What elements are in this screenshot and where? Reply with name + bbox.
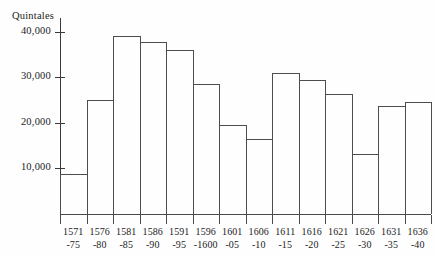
x-axis-label-1636-40: 1636-40 xyxy=(405,226,432,251)
x-tick xyxy=(352,215,353,224)
bar-1621-25 xyxy=(325,94,353,214)
y-tick-label: 30,000 xyxy=(21,70,51,81)
bar-1601-05 xyxy=(219,125,247,214)
bar-1596-1600 xyxy=(193,84,221,214)
x-axis-label-1576-80: 1576-80 xyxy=(87,226,114,251)
x-label-end: -05 xyxy=(219,238,246,251)
x-label-start: 1576 xyxy=(87,226,114,238)
x-label-end: -1600 xyxy=(193,238,220,251)
x-axis-label-1631-35: 1631-35 xyxy=(378,226,405,251)
x-label-start: 1616 xyxy=(299,226,326,238)
x-label-end: -40 xyxy=(405,238,432,251)
x-axis-label-1591-95: 1591-95 xyxy=(166,226,193,251)
x-label-start: 1606 xyxy=(246,226,273,238)
bar-1586-90 xyxy=(140,42,168,214)
y-tick-10000: 10,000 xyxy=(55,168,65,169)
x-label-start: 1626 xyxy=(352,226,379,238)
x-label-start: 1596 xyxy=(193,226,220,238)
x-tick xyxy=(166,215,167,224)
x-label-end: -10 xyxy=(246,238,273,251)
x-label-end: -35 xyxy=(378,238,405,251)
x-label-start: 1591 xyxy=(166,226,193,238)
plot-area: 10,00020,00030,00040,000 1571-751576-801… xyxy=(60,18,431,214)
y-tick-label: 20,000 xyxy=(21,116,51,127)
x-label-end: -80 xyxy=(87,238,114,251)
x-tick xyxy=(405,215,406,224)
x-axis-label-1626-30: 1626-30 xyxy=(352,226,379,251)
x-label-start: 1631 xyxy=(378,226,405,238)
bar-1636-40 xyxy=(405,102,433,214)
bar-1616-20 xyxy=(299,80,327,214)
x-label-start: 1611 xyxy=(272,226,299,238)
x-label-start: 1571 xyxy=(60,226,87,238)
x-tick xyxy=(219,215,220,224)
x-label-start: 1586 xyxy=(140,226,167,238)
bar-1606-10 xyxy=(246,139,274,214)
x-label-end: -30 xyxy=(352,238,379,251)
y-tick-label: 40,000 xyxy=(21,25,51,36)
bar-1631-35 xyxy=(378,106,406,214)
x-axis-label-1616-20: 1616-20 xyxy=(299,226,326,251)
bar-1611-15 xyxy=(272,73,300,214)
x-tick xyxy=(113,215,114,224)
x-label-start: 1636 xyxy=(405,226,432,238)
x-tick xyxy=(325,215,326,224)
bar-1571-75 xyxy=(60,174,88,214)
x-tick xyxy=(87,215,88,224)
y-tick-20000: 20,000 xyxy=(55,123,65,124)
x-tick xyxy=(272,215,273,224)
y-tick-40000: 40,000 xyxy=(55,32,65,33)
x-label-end: -15 xyxy=(272,238,299,251)
x-tick xyxy=(299,215,300,224)
x-label-end: -20 xyxy=(299,238,326,251)
bar-1576-80 xyxy=(87,100,115,214)
x-label-start: 1601 xyxy=(219,226,246,238)
x-label-start: 1581 xyxy=(113,226,140,238)
x-tick xyxy=(60,215,61,224)
x-tick xyxy=(193,215,194,224)
x-axis-label-1611-15: 1611-15 xyxy=(272,226,299,251)
x-tick xyxy=(431,215,432,224)
x-tick xyxy=(246,215,247,224)
x-label-end: -95 xyxy=(166,238,193,251)
y-axis-title: Quintales xyxy=(12,10,54,21)
x-label-end: -85 xyxy=(113,238,140,251)
chart-figure: Quintales 10,00020,00030,00040,000 1571-… xyxy=(0,0,434,258)
x-tick xyxy=(378,215,379,224)
bar-1581-85 xyxy=(113,36,141,214)
x-axis-label-1586-90: 1586-90 xyxy=(140,226,167,251)
x-axis-label-1621-25: 1621-25 xyxy=(325,226,352,251)
x-axis-label-1606-10: 1606-10 xyxy=(246,226,273,251)
x-axis-label-1581-85: 1581-85 xyxy=(113,226,140,251)
x-axis-label-1596-1600: 1596-1600 xyxy=(193,226,220,251)
y-tick-30000: 30,000 xyxy=(55,77,65,78)
x-axis-label-1571-75: 1571-75 xyxy=(60,226,87,251)
x-tick xyxy=(140,215,141,224)
bar-1626-30 xyxy=(352,154,380,214)
x-label-start: 1621 xyxy=(325,226,352,238)
x-label-end: -75 xyxy=(60,238,87,251)
bar-1591-95 xyxy=(166,50,194,214)
x-label-end: -25 xyxy=(325,238,352,251)
x-label-end: -90 xyxy=(140,238,167,251)
x-axis-label-1601-05: 1601-05 xyxy=(219,226,246,251)
y-tick-label: 10,000 xyxy=(21,161,51,172)
